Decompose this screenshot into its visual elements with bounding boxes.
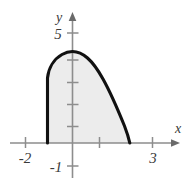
y-tick-label-5: 5 <box>54 26 62 42</box>
plot-canvas: y x 5 -1 -2 3 <box>0 0 189 184</box>
x-axis-label: x <box>174 121 182 136</box>
x-tick-label-3: 3 <box>148 150 157 166</box>
x-axis-arrow-icon <box>171 139 180 147</box>
x-tick-label--2: -2 <box>19 150 32 166</box>
y-axis-label: y <box>54 10 63 25</box>
math-figure-area-under-curve: y x 5 -1 -2 3 <box>0 0 189 184</box>
y-tick-label--1: -1 <box>50 159 63 175</box>
y-axis-arrow-icon <box>69 12 77 21</box>
shaded-region <box>48 52 130 144</box>
